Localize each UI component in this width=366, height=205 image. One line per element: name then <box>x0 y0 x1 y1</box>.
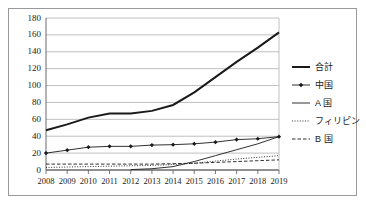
y-axis-tick-label: 180 <box>9 14 41 23</box>
series-line-0 <box>46 32 279 130</box>
chart-frame: 0204060801001201401601802008200920102011… <box>8 8 357 196</box>
line-chart <box>9 9 358 197</box>
y-axis-tick-label: 20 <box>9 149 41 158</box>
data-point-marker <box>213 140 217 144</box>
legend-label-4: B 国 <box>315 134 333 144</box>
legend-label-1: 中国 <box>315 80 333 90</box>
y-axis-tick-label: 0 <box>9 166 41 175</box>
legend-marker-1 <box>299 83 304 88</box>
data-point-marker <box>107 144 111 148</box>
legend-label-3: フィリピン <box>315 116 360 126</box>
series-line-4 <box>46 160 279 164</box>
legend-label-0: 合計 <box>315 62 333 72</box>
data-point-marker <box>192 142 196 146</box>
data-point-marker <box>129 144 133 148</box>
chart-plot-area: 0204060801001201401601802008200920102011… <box>9 9 356 195</box>
data-point-marker <box>256 137 260 141</box>
data-point-marker <box>235 138 239 142</box>
data-point-marker <box>65 148 69 152</box>
data-point-marker <box>171 143 175 147</box>
data-point-marker <box>44 151 48 155</box>
y-axis-tick-label: 120 <box>9 64 41 73</box>
y-axis-tick-label: 140 <box>9 47 41 56</box>
y-axis-tick-label: 100 <box>9 81 41 90</box>
legend-label-2: A 国 <box>315 98 332 108</box>
y-axis-tick-label: 40 <box>9 132 41 141</box>
y-axis-tick-label: 80 <box>9 98 41 107</box>
data-point-marker <box>150 143 154 147</box>
y-axis-tick-label: 160 <box>9 30 41 39</box>
x-axis-tick-label: 2019 <box>266 177 292 186</box>
data-point-marker <box>86 145 90 149</box>
y-axis-tick-label: 60 <box>9 115 41 124</box>
series-line-1 <box>46 137 279 153</box>
